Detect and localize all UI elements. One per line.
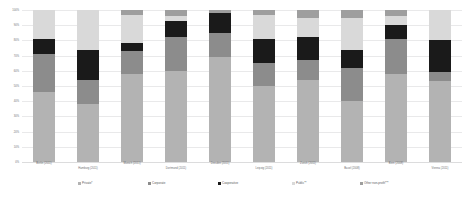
bar-segment[interactable] [297, 37, 319, 60]
y-axis-tick-label: 50% [14, 85, 19, 88]
bar-segment[interactable] [341, 10, 363, 18]
bar-group[interactable] [165, 10, 187, 162]
bar-segment[interactable] [121, 43, 143, 51]
bar-segment[interactable] [165, 37, 187, 70]
bar-segment[interactable] [429, 40, 451, 72]
bar-segment[interactable] [121, 10, 143, 15]
legend-color-swatch [78, 182, 81, 185]
bar-segment[interactable] [33, 54, 55, 92]
stacked-bar[interactable] [77, 10, 99, 162]
bar-segment[interactable] [33, 10, 55, 39]
legend-label: Other non-profit*** [364, 182, 389, 185]
bar-segment[interactable] [341, 18, 363, 50]
x-axis-tick-label: Dresden (2011) [211, 162, 230, 165]
bar-segment[interactable] [385, 25, 407, 39]
y-axis-tick-label: 60% [14, 69, 19, 72]
bar-segment[interactable] [385, 10, 407, 16]
y-axis-tick-label: 70% [14, 54, 19, 57]
legend-color-swatch [292, 182, 295, 185]
stacked-bar[interactable] [209, 10, 231, 162]
bar-segment[interactable] [253, 63, 275, 86]
legend-item[interactable]: Private* [78, 182, 93, 185]
bar-segment[interactable] [165, 71, 187, 162]
stacked-bar[interactable] [33, 10, 55, 162]
bar-segment[interactable] [165, 10, 187, 16]
bar-segment[interactable] [385, 16, 407, 25]
bar-segment[interactable] [209, 13, 231, 33]
bar-segment[interactable] [429, 10, 451, 40]
x-axis-tick-label: Munich (2011) [123, 162, 140, 165]
bar-segment[interactable] [253, 86, 275, 162]
bar-segment[interactable] [121, 51, 143, 74]
bar-group[interactable] [341, 10, 363, 162]
x-axis-tick-label: Bern (2008) [389, 162, 403, 165]
bar-segment[interactable] [209, 10, 231, 13]
y-axis-tick-label: 30% [14, 115, 19, 118]
stacked-bar[interactable] [385, 10, 407, 162]
bar-segment[interactable] [77, 104, 99, 162]
bar-segment[interactable] [429, 81, 451, 162]
y-axis-tick-label: 0% [15, 161, 19, 164]
legend-label: Cooperative [222, 182, 238, 185]
bar-segment[interactable] [77, 10, 99, 50]
legend-label: Corporate [152, 182, 165, 185]
plot-area [22, 10, 462, 162]
bar-group[interactable] [253, 10, 275, 162]
bar-segment[interactable] [165, 16, 187, 21]
bar-group[interactable] [121, 10, 143, 162]
bar-group[interactable] [297, 10, 319, 162]
bar-segment[interactable] [297, 60, 319, 80]
bar-segment[interactable] [209, 33, 231, 57]
bar-segment[interactable] [253, 15, 275, 39]
bar-group[interactable] [209, 10, 231, 162]
bar-segment[interactable] [341, 50, 363, 68]
y-axis-tick-label: 100% [12, 9, 19, 12]
legend-color-swatch [360, 182, 363, 185]
bar-segment[interactable] [77, 80, 99, 104]
bar-segment[interactable] [253, 39, 275, 63]
legend-color-swatch [218, 182, 221, 185]
x-axis-tick-label: Leipzig (2011) [256, 167, 273, 170]
legend-item[interactable]: Public** [292, 182, 307, 185]
stacked-bar-chart: 100%90%80%70%60%50%40%30%20%10%0% Berlin… [0, 0, 468, 200]
bar-segment[interactable] [33, 92, 55, 162]
legend-label: Private* [82, 182, 93, 185]
stacked-bar[interactable] [253, 10, 275, 162]
bar-segment[interactable] [121, 74, 143, 162]
legend-item[interactable]: Cooperative [218, 182, 238, 185]
bar-group[interactable] [385, 10, 407, 162]
stacked-bar[interactable] [297, 10, 319, 162]
legend-color-swatch [148, 182, 151, 185]
y-axis-tick-label: 80% [14, 39, 19, 42]
bar-segment[interactable] [385, 39, 407, 74]
x-axis-tick-label: Vienna (2011) [432, 167, 449, 170]
bar-group[interactable] [33, 10, 55, 162]
bar-segment[interactable] [385, 74, 407, 162]
x-axis-tick-label: Dortmund (2011) [166, 167, 186, 170]
bar-segment[interactable] [297, 10, 319, 18]
x-axis-tick-label: Zurich (2011) [300, 162, 316, 165]
stacked-bar[interactable] [429, 10, 451, 162]
bar-group[interactable] [429, 10, 451, 162]
bar-segment[interactable] [253, 10, 275, 15]
bar-segment[interactable] [341, 68, 363, 101]
bar-segment[interactable] [209, 57, 231, 162]
bar-segment[interactable] [165, 21, 187, 38]
stacked-bar[interactable] [341, 10, 363, 162]
y-axis-tick-label: 20% [14, 130, 19, 133]
x-axis-tick-label: Berlin (2011) [36, 162, 51, 165]
bar-segment[interactable] [121, 15, 143, 44]
bar-segment[interactable] [429, 72, 451, 81]
y-axis-tick-label: 10% [14, 145, 19, 148]
bar-segment[interactable] [341, 101, 363, 162]
legend-item[interactable]: Corporate [148, 182, 165, 185]
bar-segment[interactable] [297, 80, 319, 162]
bar-segment[interactable] [297, 18, 319, 38]
stacked-bar[interactable] [121, 10, 143, 162]
stacked-bar[interactable] [165, 10, 187, 162]
bar-segment[interactable] [33, 39, 55, 54]
chart-legend: Private*CorporateCooperativePublic**Othe… [0, 182, 468, 192]
bar-group[interactable] [77, 10, 99, 162]
bar-segment[interactable] [77, 50, 99, 80]
legend-item[interactable]: Other non-profit*** [360, 182, 389, 185]
